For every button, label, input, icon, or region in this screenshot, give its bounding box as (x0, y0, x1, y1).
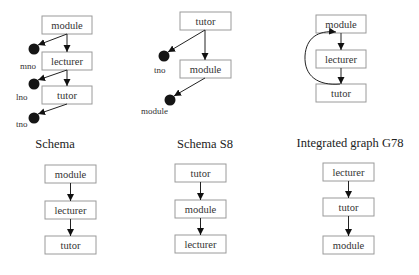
schema-s8-bottom-graph: tutor module lecturer (175, 164, 226, 253)
node-lecturer: lecturer (175, 235, 226, 253)
node-tutor: tutor (323, 198, 374, 216)
schema-top-graph: module lecturer tutor mno lno tno (16, 16, 92, 129)
node-lecturer: lecturer (42, 52, 92, 70)
node-module: module (42, 16, 92, 34)
node-label: tutor (191, 168, 211, 179)
node-lecturer: lecturer (316, 50, 366, 68)
schema-bottom-graph: module lecturer tutor (45, 165, 96, 254)
node-module: module (180, 60, 231, 78)
node-tutor: tutor (180, 12, 231, 30)
node-label: lecturer (332, 167, 365, 178)
node-module: module (175, 200, 226, 218)
attribute-edge (38, 34, 67, 45)
node-tutor: tutor (175, 164, 226, 182)
node-module: module (45, 165, 96, 183)
caption-schema: Schema (35, 137, 75, 151)
g78-top-graph: module lecturer tutor (305, 15, 366, 102)
node-tutor: tutor (316, 84, 366, 102)
attribute-label: lno (16, 92, 28, 102)
attribute-label: module (141, 106, 168, 116)
attribute-dot-icon (29, 44, 40, 55)
node-label: module (325, 19, 357, 30)
node-label: module (190, 64, 222, 75)
node-module: module (323, 236, 374, 254)
node-tutor: tutor (45, 236, 96, 254)
node-label: tutor (61, 240, 81, 251)
caption-schema-s8: Schema S8 (177, 137, 233, 151)
attribute-label: tno (16, 119, 28, 129)
attribute-dot-icon (29, 113, 40, 124)
node-module: module (316, 15, 366, 33)
attribute-dot-icon (159, 51, 170, 62)
node-label: module (185, 204, 217, 215)
attribute-label: tno (154, 65, 166, 75)
schema-s8-top-graph: tutor module tno module (141, 12, 231, 116)
attribute-edge (38, 70, 67, 80)
node-label: lecturer (325, 54, 358, 65)
node-label: lecturer (54, 205, 87, 216)
node-lecturer: lecturer (323, 163, 374, 181)
g78-bottom-graph: lecturer tutor module (323, 163, 374, 254)
node-label: tutor (339, 202, 359, 213)
node-tutor: tutor (42, 86, 92, 104)
attribute-dot-icon (165, 95, 176, 106)
node-label: module (333, 240, 365, 251)
attribute-dot-icon (29, 79, 40, 90)
diagram-canvas: module lecturer tutor mno lno tno tutor … (0, 0, 419, 275)
node-label: lecturer (51, 56, 84, 67)
attribute-edge (174, 78, 205, 96)
node-label: lecturer (184, 239, 217, 250)
attribute-edge (168, 30, 205, 52)
node-label: tutor (331, 88, 351, 99)
node-lecturer: lecturer (45, 201, 96, 219)
node-label: module (51, 20, 83, 31)
attribute-label: mno (20, 61, 37, 71)
node-label: tutor (57, 90, 77, 101)
node-label: tutor (196, 16, 216, 27)
caption-integrated-graph-g78: Integrated graph G78 (297, 136, 404, 150)
attribute-edge (38, 104, 67, 114)
node-label: module (55, 169, 87, 180)
